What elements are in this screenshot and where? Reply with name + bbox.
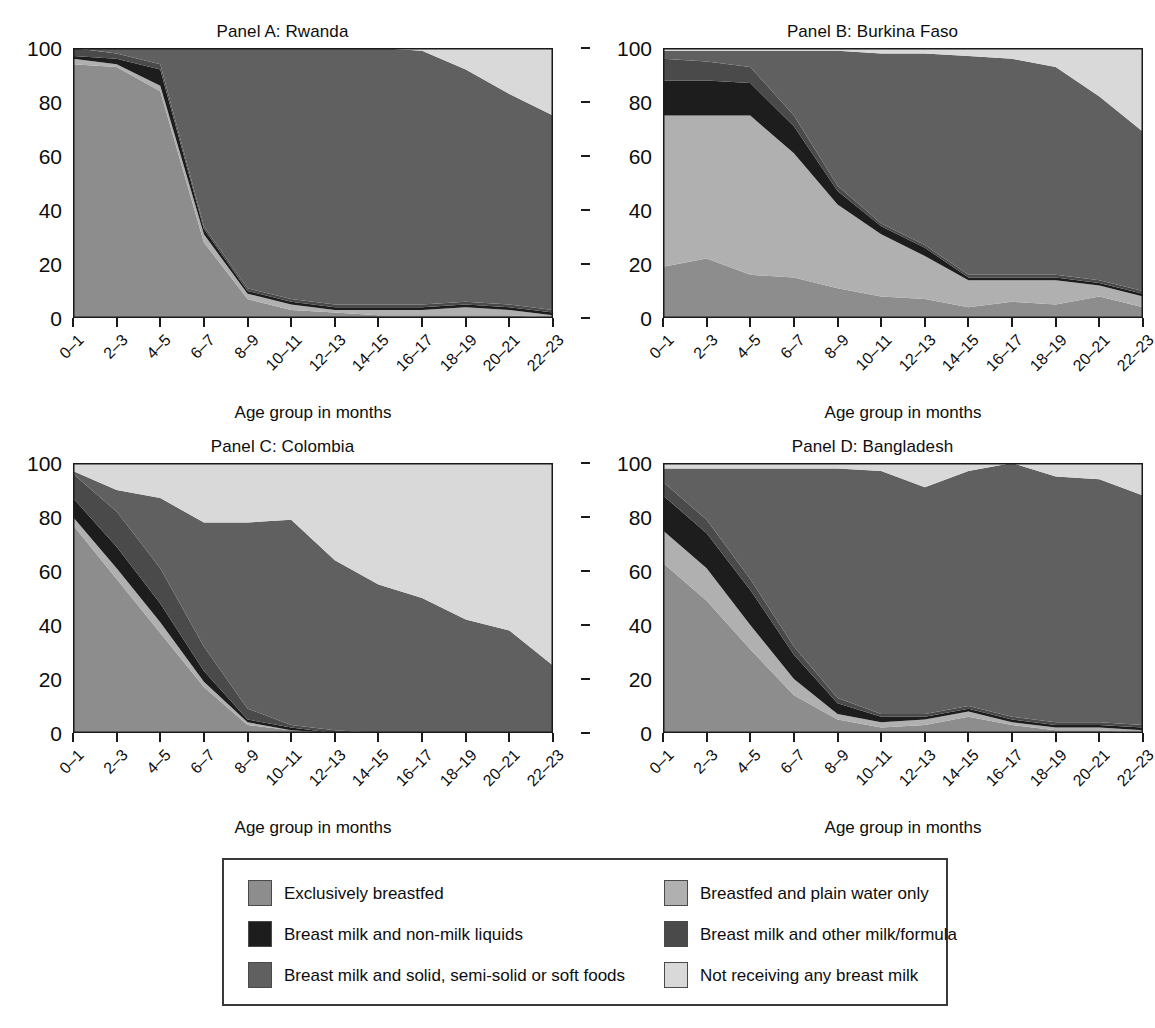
legend-swatch-exclusively_breastfed [248, 880, 272, 906]
x-tick-mark [290, 733, 292, 742]
x-tick-mark [421, 733, 423, 742]
y-axis-tick-label: 60 [608, 561, 652, 582]
panel-b-area-chart [663, 48, 1143, 318]
x-tick-mark [967, 733, 969, 742]
y-tick-mark [581, 732, 590, 734]
panel-a-plot [73, 48, 553, 318]
y-axis-tick-label: 40 [608, 200, 652, 221]
x-tick-mark [159, 318, 161, 327]
legend-item[interactable]: Breast milk and solid, semi-solid or sof… [248, 962, 625, 988]
x-tick-mark [334, 318, 336, 327]
panel-b-plot [663, 48, 1143, 318]
x-tick-mark [72, 733, 74, 742]
legend-swatch-other_milk_formula [664, 921, 688, 947]
legend-label-other_milk_formula: Breast milk and other milk/formula [700, 926, 957, 943]
x-tick-mark [1055, 318, 1057, 327]
x-tick-mark [116, 733, 118, 742]
legend-item[interactable]: Exclusively breastfed [248, 880, 444, 906]
y-tick-mark [581, 47, 590, 49]
legend-swatch-solid_foods [248, 962, 272, 988]
x-tick-mark [334, 733, 336, 742]
y-axis-tick-label: 40 [18, 200, 62, 221]
x-tick-mark [72, 318, 74, 327]
x-tick-mark [508, 318, 510, 327]
x-tick-mark [793, 733, 795, 742]
legend-label-exclusively_breastfed: Exclusively breastfed [284, 885, 444, 902]
x-tick-mark [421, 318, 423, 327]
x-tick-mark [793, 318, 795, 327]
x-tick-mark [880, 733, 882, 742]
x-tick-mark [290, 318, 292, 327]
legend-item[interactable]: Breast milk and other milk/formula [664, 921, 957, 947]
y-axis-tick-label: 60 [18, 561, 62, 582]
x-tick-mark [967, 318, 969, 327]
panel-c-title: Panel C: Colombia [0, 437, 565, 457]
y-axis-tick-label: 0 [608, 723, 652, 744]
y-axis-tick-label: 100 [18, 38, 62, 59]
legend-swatch-non_milk_liquids [248, 921, 272, 947]
y-axis-tick-label: 100 [608, 38, 652, 59]
x-axis-title: Age group in months [663, 818, 1143, 838]
y-tick-mark [581, 101, 590, 103]
x-tick-mark [116, 318, 118, 327]
x-tick-mark [749, 733, 751, 742]
panel-a-area-chart [73, 48, 553, 318]
legend-swatch-not_receiving [664, 962, 688, 988]
y-axis-tick-label: 20 [18, 669, 62, 690]
x-tick-mark [1055, 733, 1057, 742]
y-axis-tick-label: 40 [18, 615, 62, 636]
panel-b: Panel B: Burkina Faso 0204060801000–12–3… [590, 22, 1155, 422]
y-axis-tick-label: 20 [608, 254, 652, 275]
x-tick-mark [247, 733, 249, 742]
legend-item[interactable]: Breastfed and plain water only [664, 880, 929, 906]
x-tick-mark [662, 318, 664, 327]
legend-item[interactable]: Breast milk and non-milk liquids [248, 921, 523, 947]
x-tick-mark [706, 733, 708, 742]
y-tick-mark [581, 462, 590, 464]
x-tick-mark [377, 733, 379, 742]
panel-d-title: Panel D: Bangladesh [590, 437, 1155, 457]
panel-a: Panel A: Rwanda 0204060801000–12–34–56–7… [0, 22, 565, 422]
x-axis-title: Age group in months [73, 403, 553, 423]
y-tick-mark [581, 209, 590, 211]
panel-c: Panel C: Colombia 0204060801000–12–34–56… [0, 437, 565, 837]
legend-label-plain_water_only: Breastfed and plain water only [700, 885, 929, 902]
x-axis-title: Age group in months [73, 818, 553, 838]
legend: Exclusively breastfedBreastfed and plain… [222, 858, 948, 1006]
y-axis-tick-label: 40 [608, 615, 652, 636]
x-tick-mark [552, 318, 554, 327]
y-axis-tick-label: 100 [18, 453, 62, 474]
x-tick-mark [203, 318, 205, 327]
x-tick-mark [247, 318, 249, 327]
panel-d-area-chart [663, 463, 1143, 733]
x-tick-mark [924, 318, 926, 327]
x-tick-mark [662, 733, 664, 742]
legend-label-not_receiving: Not receiving any breast milk [700, 967, 918, 984]
x-tick-mark [1142, 733, 1144, 742]
panel-a-title: Panel A: Rwanda [0, 22, 565, 42]
legend-item[interactable]: Not receiving any breast milk [664, 962, 918, 988]
x-tick-mark [465, 733, 467, 742]
y-axis-tick-label: 80 [608, 92, 652, 113]
y-tick-mark [581, 263, 590, 265]
x-tick-mark [159, 733, 161, 742]
x-tick-mark [1142, 318, 1144, 327]
x-tick-mark [1011, 733, 1013, 742]
x-axis-title: Age group in months [663, 403, 1143, 423]
x-tick-mark [837, 733, 839, 742]
panel-b-title: Panel B: Burkina Faso [590, 22, 1155, 42]
y-axis-tick-label: 100 [608, 453, 652, 474]
y-axis-tick-label: 60 [18, 146, 62, 167]
y-axis-tick-label: 60 [608, 146, 652, 167]
y-axis-tick-label: 0 [18, 308, 62, 329]
y-tick-mark [581, 570, 590, 572]
x-tick-mark [837, 318, 839, 327]
x-tick-mark [203, 733, 205, 742]
x-tick-mark [552, 733, 554, 742]
x-tick-mark [924, 733, 926, 742]
x-tick-mark [508, 733, 510, 742]
x-tick-mark [1011, 318, 1013, 327]
x-tick-mark [706, 318, 708, 327]
panel-d-plot [663, 463, 1143, 733]
y-axis-tick-label: 20 [18, 254, 62, 275]
